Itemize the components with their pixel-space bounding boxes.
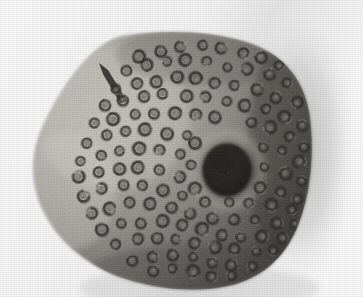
film-grain-global [0, 0, 363, 297]
artifact-photograph: stamped stone artifact rounded triangula… [0, 0, 363, 297]
photo-canvas [0, 0, 363, 297]
